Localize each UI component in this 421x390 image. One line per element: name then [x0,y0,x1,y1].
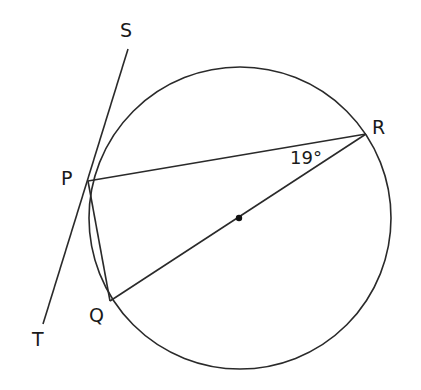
angle-label: 19° [290,147,322,168]
center-dot [236,215,242,221]
label-s: S [120,19,132,41]
label-q: Q [89,304,104,326]
label-t: T [31,328,44,350]
label-p: P [61,167,72,189]
tangent-line-st [43,49,128,324]
geometry-diagram: S P R Q T 19° [0,0,421,390]
label-r: R [372,116,385,138]
chord-pr [88,134,366,181]
